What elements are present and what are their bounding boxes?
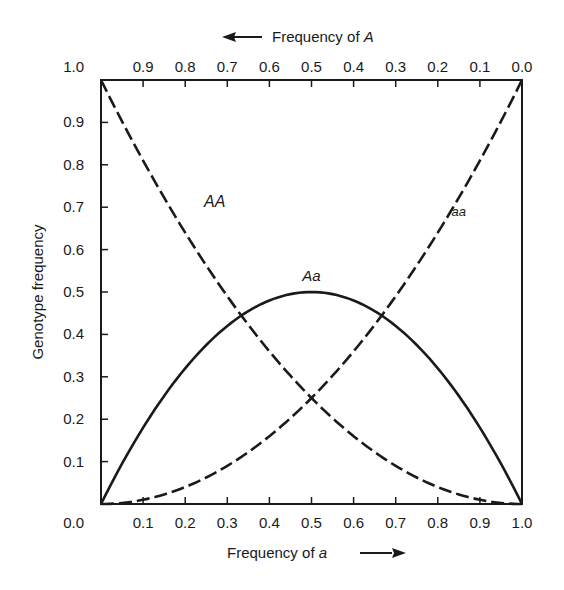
y-tick-label: 0.4 [63,325,84,342]
y-tick-label: 0.9 [63,113,84,130]
x-tick-label: 0.1 [133,514,154,531]
axis-ticks [101,80,480,504]
curves [101,80,522,504]
y-tick-label: 1.0 [63,58,84,75]
x-tick-label: 0.3 [217,514,238,531]
top-axis-title: Frequency of A [272,28,374,45]
y-tick-label: 0.8 [63,156,84,173]
y-tick-label: 0.6 [63,241,84,258]
genotype-frequency-chart: Frequency of A Genotype frequency Freque… [0,0,564,590]
bottom-axis-title: Frequency of a [227,544,327,561]
y-axis-title: Genotype frequency [29,224,46,360]
x2-tick-label: 0.7 [217,58,238,75]
x2-tick-label: 0.0 [512,58,533,75]
curve-label-aa: aa [452,204,466,219]
curve-labels: AAAaaa [203,193,466,284]
axis-tick-labels: 0.10.90.10.20.80.20.30.70.30.40.60.40.50… [63,58,532,531]
y-tick-label: 0.5 [63,283,84,300]
x-tick-label: 0.4 [259,514,280,531]
x2-tick-label: 0.5 [301,58,322,75]
x-tick-label: 0.6 [343,514,364,531]
y-tick-label: 0.0 [63,514,84,531]
y-tick-label: 0.3 [63,368,84,385]
curve-label-Aa: Aa [301,267,320,284]
curve-label-AA: AA [203,193,225,210]
y-tick-label: 0.1 [63,453,84,470]
y-tick-label: 0.7 [63,198,84,215]
x-tick-label: 0.5 [301,514,322,531]
x-tick-label: 0.2 [175,514,196,531]
x2-tick-label: 0.2 [427,58,448,75]
y-tick-label: 0.2 [63,410,84,427]
x2-tick-label: 0.9 [133,58,154,75]
left-arrow-icon [222,32,236,42]
x-tick-label: 0.7 [385,514,406,531]
x2-tick-label: 0.8 [175,58,196,75]
x2-tick-label: 0.6 [259,58,280,75]
right-arrow-icon [392,548,406,558]
x-tick-label: 1.0 [512,514,533,531]
top-axis-title-group: Frequency of A [222,28,374,45]
x2-tick-label: 0.3 [385,58,406,75]
x-tick-label: 0.8 [427,514,448,531]
x2-tick-label: 0.4 [343,58,364,75]
x2-tick-label: 0.1 [469,58,490,75]
bottom-axis-title-group: Frequency of a [227,544,406,561]
x-tick-label: 0.9 [469,514,490,531]
